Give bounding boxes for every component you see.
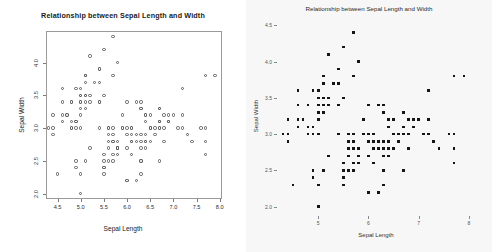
data-point — [111, 35, 114, 38]
data-point — [297, 104, 300, 107]
data-point — [139, 172, 142, 175]
data-point — [382, 184, 385, 187]
data-point — [357, 147, 360, 150]
x-axis-tick-label: 7.5 — [193, 204, 201, 210]
y-axis-tick-label: 3.0 — [33, 124, 39, 132]
data-point — [392, 118, 395, 121]
data-point — [162, 140, 165, 143]
right-chart-panel: Relationship between Sepal Length and Wi… — [246, 0, 492, 252]
data-point — [125, 146, 128, 149]
data-point — [125, 126, 128, 129]
data-point — [190, 140, 193, 143]
data-point — [111, 126, 114, 129]
data-point — [367, 155, 370, 158]
x-axis-tick-label: 7.0 — [169, 204, 177, 210]
y-axis-tick-label: 2.0 — [33, 190, 39, 198]
y-axis-tick-label: 3.5 — [257, 95, 272, 101]
left-chart-title: Relationship between Sepal Length and Wi… — [0, 11, 246, 20]
data-point — [153, 126, 156, 129]
data-point — [116, 140, 119, 143]
left-y-axis-title: Sepal Width — [18, 97, 25, 133]
data-point — [352, 162, 355, 165]
data-point — [392, 133, 395, 136]
x-axis-tick — [173, 199, 174, 202]
y-axis-tick — [274, 134, 277, 135]
data-point — [317, 184, 320, 187]
data-point — [382, 104, 385, 107]
data-point — [111, 159, 114, 162]
data-point — [61, 113, 64, 116]
data-point — [213, 74, 216, 77]
data-point — [98, 126, 101, 129]
data-point — [352, 140, 355, 143]
y-axis-tick — [43, 63, 46, 64]
data-point — [357, 60, 360, 63]
data-point — [144, 146, 147, 149]
data-point — [47, 126, 50, 129]
data-point — [317, 111, 320, 114]
data-point — [342, 46, 345, 49]
x-axis-tick-label: 7 — [417, 220, 420, 226]
data-point — [84, 159, 87, 162]
data-point — [125, 133, 128, 136]
data-point — [84, 107, 87, 110]
data-point — [347, 133, 350, 136]
y-axis-tick — [43, 95, 46, 96]
x-axis-tick — [220, 199, 221, 202]
data-point — [382, 169, 385, 172]
data-point — [111, 74, 114, 77]
data-point — [297, 126, 300, 129]
data-point — [204, 126, 207, 129]
data-point — [158, 120, 161, 123]
data-point — [402, 126, 405, 129]
data-point — [135, 133, 138, 136]
data-point — [362, 118, 365, 121]
data-point — [186, 133, 189, 136]
data-point — [362, 133, 365, 136]
data-point — [139, 159, 142, 162]
data-point — [181, 113, 184, 116]
data-point — [387, 126, 390, 129]
data-point — [377, 147, 380, 150]
data-point — [322, 169, 325, 172]
y-axis-tick — [43, 128, 46, 129]
data-point — [70, 100, 73, 103]
data-point — [158, 159, 161, 162]
x-axis-tick — [127, 199, 128, 202]
data-point — [121, 126, 124, 129]
right-plot-area — [278, 18, 474, 214]
data-point — [352, 75, 355, 78]
data-point — [116, 153, 119, 156]
x-axis-tick-label: 5.5 — [100, 204, 108, 210]
data-point — [61, 120, 64, 123]
data-point — [172, 113, 175, 116]
data-point — [125, 100, 128, 103]
data-point — [56, 172, 59, 175]
data-point — [352, 31, 355, 34]
data-point — [107, 146, 110, 149]
data-point — [79, 87, 82, 90]
data-point — [79, 107, 82, 110]
data-point — [70, 120, 73, 123]
data-point — [167, 120, 170, 123]
data-point — [382, 155, 385, 158]
data-point — [352, 147, 355, 150]
data-point — [149, 126, 152, 129]
data-point — [51, 126, 54, 129]
data-point — [387, 155, 390, 158]
data-point — [352, 169, 355, 172]
data-point — [135, 179, 138, 182]
data-point — [402, 111, 405, 114]
data-point — [297, 118, 300, 121]
data-point — [327, 53, 330, 56]
x-axis-tick-label: 6.0 — [123, 204, 131, 210]
data-point — [181, 87, 184, 90]
data-point — [432, 140, 435, 143]
data-point — [102, 166, 105, 169]
data-point — [102, 94, 105, 97]
data-point — [70, 126, 73, 129]
data-point — [149, 113, 152, 116]
data-point — [84, 74, 87, 77]
data-point — [204, 140, 207, 143]
data-point — [312, 89, 315, 92]
